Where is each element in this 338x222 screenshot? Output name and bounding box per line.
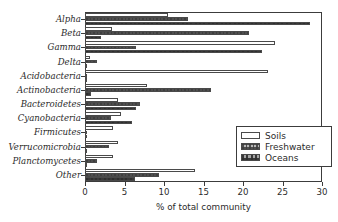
bar-oceans-firmicutes (85, 135, 87, 139)
bar-oceans-alpha (85, 22, 310, 26)
x-axis-tick-5 (125, 182, 126, 186)
y-axis-tick-delta (81, 62, 85, 63)
bar-group-bacteroidetes (85, 97, 322, 111)
bar-group-gamma (85, 40, 322, 54)
y-axis-tick-cyanobacteria (81, 118, 85, 119)
legend-label-soils: Soils (265, 131, 286, 141)
bar-soils-other (85, 169, 195, 173)
bar-soils-verrucomicrobia (85, 141, 118, 145)
bar-group-beta (85, 26, 322, 40)
y-axis-tick-planctomycetes (81, 161, 85, 162)
bar-freshwater-delta (85, 60, 97, 64)
y-axis-tick-acidobacteria (81, 76, 85, 77)
legend-swatch-soils-icon (241, 132, 260, 139)
bar-soils-acidobacteria (85, 70, 268, 74)
y-axis-tick-actinobacteria (81, 90, 85, 91)
bar-freshwater-cyanobacteria (85, 116, 111, 120)
bar-freshwater-beta (85, 31, 249, 35)
y-axis-tick-beta (81, 33, 85, 34)
x-axis-tick-label-10: 10 (159, 187, 170, 197)
y-axis-labels: AlphaBetaGammaDeltaAcidobacteriaActinoba… (0, 12, 81, 182)
bar-soils-alpha (85, 13, 168, 17)
y-axis-tick-firmicutes (81, 132, 85, 133)
bar-freshwater-verrucomicrobia (85, 145, 109, 149)
legend-swatch-oceans-icon (241, 154, 260, 161)
y-axis-label-verrucomicrobia: Verrucomicrobia (0, 142, 81, 152)
bar-oceans-beta (85, 36, 101, 40)
bar-freshwater-other (85, 173, 159, 177)
y-axis-tick-alpha (81, 19, 85, 20)
bar-group-other (85, 168, 322, 182)
bar-oceans-acidobacteria (85, 78, 87, 82)
y-axis-label-alpha: Alpha (0, 14, 81, 24)
y-axis-label-actinobacteria: Actinobacteria (0, 85, 81, 95)
x-axis-tick-label-25: 25 (277, 187, 288, 197)
legend-swatch-freshwater-icon (241, 143, 260, 150)
y-axis-label-cyanobacteria: Cyanobacteria (0, 113, 81, 123)
x-axis-title: % of total community (85, 202, 322, 212)
y-axis-label-firmicutes: Firmicutes (0, 127, 81, 137)
bar-soils-firmicutes (85, 126, 113, 130)
x-axis-tick-label-30: 30 (317, 187, 328, 197)
bar-group-cyanobacteria (85, 111, 322, 125)
chart-legend: Soils Freshwater Oceans (236, 126, 332, 167)
bar-freshwater-firmicutes (85, 131, 87, 135)
bar-oceans-planctomycetes (85, 163, 87, 167)
legend-label-freshwater: Freshwater (265, 142, 315, 152)
bar-soils-actinobacteria (85, 84, 147, 88)
y-axis-label-beta: Beta (0, 28, 81, 38)
bar-soils-beta (85, 27, 112, 31)
bar-group-alpha (85, 12, 322, 26)
bar-group-actinobacteria (85, 83, 322, 97)
legend-item-oceans: Oceans (241, 152, 327, 163)
bar-group-delta (85, 55, 322, 69)
bar-oceans-cyanobacteria (85, 121, 132, 125)
bar-freshwater-acidobacteria (85, 74, 87, 78)
y-axis-tick-bacteroidetes (81, 104, 85, 105)
bar-soils-cyanobacteria (85, 112, 121, 116)
bar-freshwater-planctomycetes (85, 159, 97, 163)
bar-oceans-verrucomicrobia (85, 149, 87, 153)
x-axis-tick-30 (322, 182, 323, 186)
y-axis-label-other: Other (0, 170, 81, 180)
legend-item-freshwater: Freshwater (241, 141, 327, 152)
bar-group-acidobacteria (85, 69, 322, 83)
bar-freshwater-alpha (85, 17, 188, 21)
bar-soils-gamma (85, 41, 275, 45)
bar-oceans-gamma (85, 50, 262, 54)
bar-chart: AlphaBetaGammaDeltaAcidobacteriaActinoba… (0, 0, 338, 222)
x-axis-tick-label-5: 5 (122, 187, 127, 197)
y-axis-tick-other (81, 175, 85, 176)
bar-freshwater-gamma (85, 46, 136, 50)
y-axis-tick-verrucomicrobia (81, 147, 85, 148)
legend-item-soils: Soils (241, 130, 327, 141)
y-axis-label-bacteroidetes: Bacteroidetes (0, 99, 81, 109)
x-axis-tick-25 (283, 182, 284, 186)
x-axis-tick-10 (164, 182, 165, 186)
x-axis-tick-label-0: 0 (82, 187, 87, 197)
bar-soils-delta (85, 56, 90, 60)
bar-oceans-delta (85, 64, 87, 68)
bar-oceans-other (85, 177, 135, 181)
x-axis-tick-label-15: 15 (198, 187, 209, 197)
bar-oceans-actinobacteria (85, 92, 91, 96)
y-axis-label-acidobacteria: Acidobacteria (0, 71, 81, 81)
bar-freshwater-bacteroidetes (85, 102, 140, 106)
y-axis-label-planctomycetes: Planctomycetes (0, 156, 81, 166)
x-axis-tick-20 (243, 182, 244, 186)
x-axis-tick-label-20: 20 (238, 187, 249, 197)
bar-freshwater-actinobacteria (85, 88, 211, 92)
y-axis-tick-gamma (81, 47, 85, 48)
x-axis-tick-15 (204, 182, 205, 186)
bar-soils-bacteroidetes (85, 98, 118, 102)
legend-label-oceans: Oceans (265, 153, 298, 163)
x-axis-tick-0 (85, 182, 86, 186)
y-axis-label-gamma: Gamma (0, 42, 81, 52)
y-axis-label-delta: Delta (0, 57, 81, 67)
bar-oceans-bacteroidetes (85, 107, 136, 111)
bar-soils-planctomycetes (85, 155, 113, 159)
